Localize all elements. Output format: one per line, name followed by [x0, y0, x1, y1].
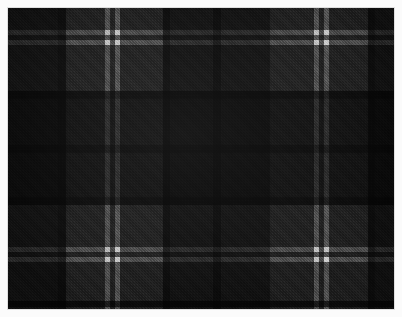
- weft-gray-top: [8, 8, 394, 30]
- weft-gray-1: [8, 45, 394, 91]
- weft-gray-2: [8, 205, 394, 247]
- tartan-cloth: [8, 8, 394, 309]
- weft-charcoal-2: [8, 145, 394, 153]
- weft-charcoal-3: [8, 197, 394, 205]
- weft-gray-3: [8, 262, 394, 301]
- weft-gray-bottom: [8, 307, 394, 309]
- weft-charcoal-1: [8, 91, 394, 99]
- weft-stripe-layer: [8, 8, 394, 309]
- tartan-swatch-root: [0, 0, 402, 317]
- weft-dark-block-1: [8, 99, 394, 145]
- weft-dark-block-2: [8, 153, 394, 197]
